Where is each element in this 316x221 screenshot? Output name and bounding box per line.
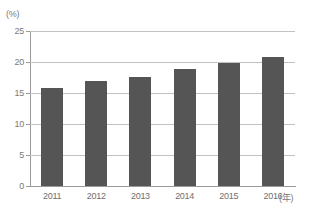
bar-2012 bbox=[85, 81, 107, 186]
gridline bbox=[30, 31, 295, 32]
y-tick-mark bbox=[26, 62, 30, 63]
y-tick-mark bbox=[26, 93, 30, 94]
y-axis-tick-label: 20 bbox=[15, 57, 24, 67]
y-axis-tick-label: 25 bbox=[15, 26, 24, 36]
y-axis-tick-label: 15 bbox=[15, 88, 24, 98]
gridline bbox=[30, 155, 295, 156]
x-axis-tick-label: 2011 bbox=[32, 191, 72, 201]
x-axis-tick-label: 2014 bbox=[165, 191, 205, 201]
gridline bbox=[30, 124, 295, 125]
y-tick-mark bbox=[26, 31, 30, 32]
plot-area: 0510152025 bbox=[30, 31, 295, 186]
x-axis-tick-label: 2012 bbox=[76, 191, 116, 201]
bar-2014 bbox=[174, 69, 196, 186]
y-tick-mark bbox=[26, 186, 30, 187]
y-axis-tick-label: 5 bbox=[19, 150, 24, 160]
y-tick-mark bbox=[26, 155, 30, 156]
bar-chart: (%) 0510152025 (年) 201120122013201420152… bbox=[0, 0, 316, 221]
x-axis-tick-label: 2016 bbox=[253, 191, 293, 201]
y-tick-mark bbox=[26, 124, 30, 125]
gridline bbox=[30, 62, 295, 63]
x-axis-tick-label: 2015 bbox=[209, 191, 249, 201]
bar-2015 bbox=[218, 63, 240, 186]
x-axis-tick-label: 2013 bbox=[120, 191, 160, 201]
bar-2013 bbox=[129, 77, 151, 186]
bar-2016 bbox=[262, 57, 284, 186]
gridline bbox=[30, 93, 295, 94]
x-axis-line bbox=[30, 186, 296, 187]
y-axis-tick-label: 10 bbox=[15, 119, 24, 129]
bar-2011 bbox=[41, 88, 63, 186]
y-axis-unit-label: (%) bbox=[6, 9, 19, 19]
y-axis-tick-label: 0 bbox=[19, 181, 24, 191]
